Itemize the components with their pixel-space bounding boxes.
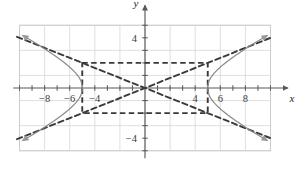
y-tick-label: −4 <box>126 133 138 144</box>
x-tick-label: −8 <box>39 93 50 104</box>
hyperbola-figure: −8−6−44684−4 x y <box>0 0 305 174</box>
x-tick-label: −6 <box>64 93 75 104</box>
x-axis-label: x <box>288 92 294 104</box>
x-tick-label: −4 <box>89 93 101 104</box>
axes <box>13 5 288 158</box>
y-tick-label: 4 <box>132 33 138 44</box>
x-tick-label: 4 <box>193 93 199 104</box>
coordinate-plane: −8−6−44684−4 x y <box>0 0 305 174</box>
x-tick-label: 8 <box>243 93 248 104</box>
y-axis-label: y <box>133 0 139 9</box>
x-tick-label: 6 <box>218 93 223 104</box>
